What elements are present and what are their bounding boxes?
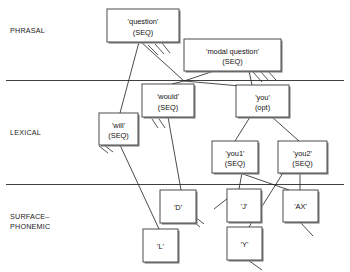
hatch-question-mark-2 [162, 43, 170, 53]
node-modal-question[interactable]: 'modal question'(SEQ) [184, 39, 283, 73]
node-y-label-line1: 'Y' [241, 240, 249, 249]
node-you1[interactable]: 'you1'(SEQ) [212, 141, 260, 175]
node-will-label-line2: (SEQ) [108, 131, 129, 140]
node-you2[interactable]: 'you2'(SEQ) [278, 141, 329, 175]
edge-question-to-junction [141, 42, 184, 81]
node-will[interactable]: 'will'(SEQ) [99, 113, 140, 147]
node-ax[interactable]: 'AX' [283, 190, 320, 224]
hatch-would-mark-0 [152, 119, 158, 128]
node-would-label-line2: (SEQ) [158, 103, 179, 112]
node-l[interactable]: 'L' [143, 229, 180, 264]
node-j[interactable]: 'J' [227, 189, 263, 224]
stratum-label-surface-phonemic: SURFACE– [10, 212, 50, 221]
edge-you-to-you1 [235, 117, 250, 141]
hatch-question [148, 43, 170, 55]
node-modal-question-label-line2: (SEQ) [222, 57, 243, 66]
edge-will-to-l [120, 145, 159, 229]
edge-modal-question-to-you [249, 71, 252, 85]
node-l-label-line1: 'L' [157, 242, 165, 251]
node-will-label-line1: 'will' [112, 121, 126, 130]
node-d[interactable]: 'D' [160, 190, 198, 225]
node-question-label-line1: 'question' [128, 17, 159, 26]
node-you2-label-line1: 'you2' [293, 149, 312, 158]
stratum-label-surface-phonemic-line2: PHONEMIC [10, 222, 50, 231]
tail-j [214, 198, 228, 209]
node-would-label-line1: 'would' [157, 92, 180, 101]
node-d-label-line1: 'D' [174, 203, 183, 212]
node-you-label-line2: (opt) [255, 103, 270, 112]
edge-would-to-d [168, 117, 181, 190]
node-j-label-line1: 'J' [241, 202, 248, 211]
node-would[interactable]: 'would'(SEQ) [142, 84, 196, 119]
network-diagram: 'question'(SEQ)'modal question'(SEQ)'wou… [0, 0, 350, 272]
node-you[interactable]: 'you'(opt) [236, 85, 291, 119]
hatch-would-mark-1 [159, 119, 165, 128]
node-you2-label-line2: (SEQ) [292, 159, 313, 168]
stratum-label-phrasal: PHRASAL [10, 26, 45, 35]
node-ax-label-line1: 'AX' [294, 202, 307, 211]
edge-you1-to-j [239, 173, 242, 189]
node-y[interactable]: 'Y' [227, 227, 264, 262]
node-modal-question-label-line1: 'modal question' [206, 47, 260, 56]
hatch-would [152, 119, 165, 128]
node-you1-label-line1: 'you1' [226, 149, 245, 158]
edge-question-to-will [120, 42, 139, 113]
node-you-label-line1: 'you' [255, 93, 270, 102]
edge-you-to-you2 [272, 117, 299, 141]
node-question-label-line2: (SEQ) [133, 28, 154, 37]
node-question[interactable]: 'question'(SEQ) [107, 9, 181, 44]
hatch-question-mark-1 [155, 44, 164, 54]
diagram-canvas: 'question'(SEQ)'modal question'(SEQ)'wou… [0, 0, 350, 272]
node-you1-label-line2: (SEQ) [225, 159, 246, 168]
stratum-label-lexical: LEXICAL [10, 128, 41, 137]
tail-ax [300, 222, 313, 236]
